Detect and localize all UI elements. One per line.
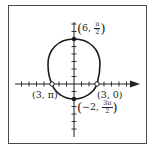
label-top-point: (6, π2)	[77, 21, 106, 35]
polar-graph	[0, 0, 152, 149]
label-bottom-r: −2,	[82, 101, 99, 112]
x-axis-arrow-icon	[130, 81, 140, 88]
point-right-marker	[95, 82, 99, 86]
point-left-marker	[50, 82, 54, 86]
label-top-r: 6,	[82, 22, 91, 33]
label-bottom-fraction: 3π2	[102, 100, 112, 114]
point-top-marker	[72, 37, 76, 41]
point-bottom-marker	[72, 97, 76, 101]
x-axis	[15, 81, 140, 88]
frac-den: 2	[102, 108, 112, 115]
label-left-point: (3, π)	[32, 90, 58, 100]
label-bottom-point: (−2, 3π2)	[77, 100, 118, 114]
